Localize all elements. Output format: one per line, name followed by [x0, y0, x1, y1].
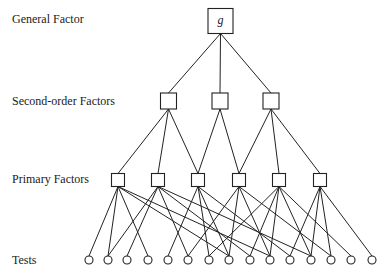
- edge-S3-P4: [239, 109, 271, 174]
- test-node-T4: [144, 256, 152, 264]
- factor-node-P2: [152, 174, 165, 187]
- test-node-T3: [123, 256, 131, 264]
- test-node-T8: [225, 256, 233, 264]
- edge-g-S1: [169, 34, 221, 94]
- edge-S1-P2: [158, 109, 169, 174]
- nodes-layer: g: [85, 9, 376, 265]
- edge-P1-T2: [108, 187, 118, 257]
- edge-P4-T6: [188, 187, 239, 257]
- factor-node-P5: [273, 174, 286, 187]
- test-node-T9: [246, 256, 254, 264]
- edge-S1-P3: [169, 109, 199, 174]
- test-node-T13: [327, 256, 335, 264]
- test-node-T2: [104, 256, 112, 264]
- test-node-T1: [85, 256, 93, 264]
- edge-P1-T1: [89, 187, 118, 257]
- edge-g-S2: [220, 34, 221, 94]
- test-node-T12: [307, 256, 315, 264]
- edge-P2-T2: [108, 187, 158, 257]
- edge-P6-T13: [320, 187, 331, 257]
- test-node-T7: [205, 256, 213, 264]
- test-node-T6: [184, 256, 192, 264]
- edge-g-S3: [221, 34, 272, 94]
- edge-P6-T15: [320, 187, 372, 257]
- edge-P4-T13: [239, 187, 331, 257]
- test-node-T10: [266, 256, 274, 264]
- test-node-T5: [164, 256, 172, 264]
- factor-hierarchy-diagram: General Factor Second-order Factors Prim…: [0, 0, 389, 275]
- factor-node-S3: [263, 93, 279, 109]
- factor-node-S1: [161, 93, 177, 109]
- factor-node-P6: [314, 174, 327, 187]
- factor-node-S2: [212, 93, 228, 109]
- factor-label-g: g: [218, 13, 224, 27]
- edge-S3-P6: [271, 109, 320, 174]
- test-node-T15: [368, 256, 376, 264]
- diagram-graph: g: [0, 0, 389, 275]
- edge-S1-P1: [118, 109, 169, 174]
- factor-node-P4: [233, 174, 246, 187]
- edge-P4-T8: [229, 187, 239, 257]
- edge-S2-P3: [198, 109, 220, 174]
- edges-layer: [89, 34, 372, 257]
- test-node-T14: [347, 256, 355, 264]
- edge-P2-T3: [127, 187, 158, 257]
- edge-P3-T7: [198, 187, 209, 257]
- factor-node-P1: [112, 174, 125, 187]
- edge-S2-P4: [220, 109, 239, 174]
- test-node-T11: [286, 256, 294, 264]
- factor-node-P3: [192, 174, 205, 187]
